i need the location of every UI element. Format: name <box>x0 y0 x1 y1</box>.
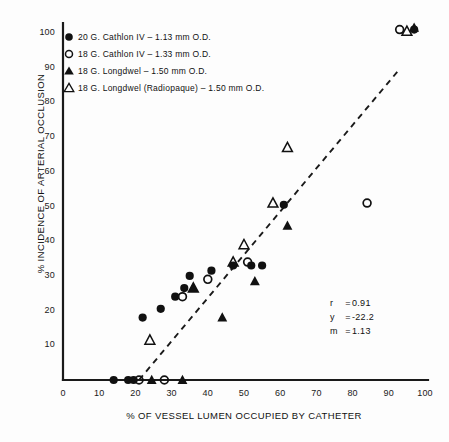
open-triangle-icon <box>60 81 78 95</box>
x-tick-60: 60 <box>267 388 293 398</box>
data-point-filled-circle <box>207 267 215 275</box>
stat-row-r: r = 0.91 <box>330 296 374 310</box>
y-tick-80: 80 <box>29 96 55 106</box>
legend-item-1: 18 G. Cathlon IV – 1.33 mm O.D. <box>60 45 360 62</box>
legend-label: 18 G. Cathlon IV – 1.33 mm O.D. <box>78 49 211 59</box>
legend-item-0: 20 G. Cathlon IV – 1.13 mm O.D. <box>60 28 360 45</box>
open-circle-icon <box>60 47 78 61</box>
legend-label: 18 G. Longdwel (Radiopaque) – 1.50 mm O.… <box>78 83 264 93</box>
data-point-open-triangle <box>145 335 155 344</box>
legend-label: 20 G. Cathlon IV – 1.13 mm O.D. <box>78 32 211 42</box>
data-point-filled-circle <box>139 313 147 321</box>
stat-row-y: y = -22.2 <box>330 310 374 324</box>
legend-item-2: 18 G. Longdwel – 1.50 mm O.D. <box>60 62 360 79</box>
stat-key-m: m <box>330 324 344 338</box>
x-tick-90: 90 <box>376 388 402 398</box>
x-tick-30: 30 <box>159 388 185 398</box>
data-point-filled-circle <box>180 284 188 292</box>
filled-circle-icon <box>60 30 78 44</box>
data-point-open-circle <box>363 199 371 207</box>
data-point-open-circle <box>204 275 212 283</box>
x-tick-10: 10 <box>86 388 112 398</box>
stat-row-m: m = 1.13 <box>330 324 374 338</box>
stat-value-m: 1.13 <box>352 324 371 338</box>
x-tick-20: 20 <box>122 388 148 398</box>
stat-value-y: -22.2 <box>352 310 374 324</box>
stat-equals-y: = <box>344 310 352 324</box>
data-point-filled-triangle <box>409 23 419 32</box>
y-tick-10: 10 <box>29 339 55 349</box>
legend: 20 G. Cathlon IV – 1.13 mm O.D.18 G. Cat… <box>60 28 360 96</box>
stat-value-r: 0.91 <box>352 296 371 310</box>
data-point-open-circle <box>179 293 187 301</box>
data-point-open-triangle <box>239 239 249 248</box>
stat-equals-r: = <box>344 296 352 310</box>
stat-equals-m: = <box>344 324 352 338</box>
data-point-filled-circle <box>110 376 118 384</box>
figure-container: % INCIDENCE OF ARTERIAL OCCLUSION % OF V… <box>0 0 449 442</box>
y-tick-30: 30 <box>29 270 55 280</box>
legend-item-3: 18 G. Longdwel (Radiopaque) – 1.50 mm O.… <box>60 79 360 96</box>
stat-key-y: y <box>330 310 344 324</box>
y-tick-20: 20 <box>29 305 55 315</box>
data-point-filled-circle <box>186 272 194 280</box>
stat-key-r: r <box>330 296 344 310</box>
data-point-filled-circle <box>280 201 288 209</box>
data-point-filled-circle <box>157 305 165 313</box>
statistics-annotation: r = 0.91 y = -22.2 m = 1.13 <box>330 296 374 338</box>
y-tick-100: 100 <box>29 27 55 37</box>
x-axis-title: % OF VESSEL LUMEN OCCUPIED BY CATHETER <box>63 410 425 421</box>
y-tick-90: 90 <box>29 62 55 72</box>
filled-triangle-icon <box>60 64 78 78</box>
legend-label: 18 G. Longdwel – 1.50 mm O.D. <box>78 66 207 76</box>
y-tick-40: 40 <box>29 235 55 245</box>
x-tick-80: 80 <box>340 388 366 398</box>
x-tick-70: 70 <box>303 388 329 398</box>
y-tick-60: 60 <box>29 166 55 176</box>
y-tick-50: 50 <box>29 201 55 211</box>
data-point-filled-triangle <box>283 220 293 229</box>
data-point-filled-triangle <box>217 312 227 321</box>
data-point-filled-circle <box>258 261 266 269</box>
data-point-open-triangle <box>268 198 278 207</box>
x-tick-0: 0 <box>50 388 76 398</box>
data-point-filled-triangle <box>250 276 260 285</box>
y-tick-70: 70 <box>29 131 55 141</box>
x-tick-100: 100 <box>412 388 438 398</box>
x-tick-50: 50 <box>231 388 257 398</box>
data-point-open-triangle <box>283 142 293 151</box>
data-point-open-circle <box>396 26 404 34</box>
x-tick-40: 40 <box>195 388 221 398</box>
